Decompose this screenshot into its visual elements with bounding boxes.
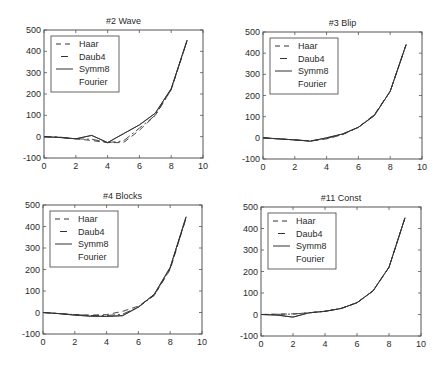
legend-label: Daub4 xyxy=(78,227,105,237)
x-tick-label: 4 xyxy=(322,339,327,349)
legend: HaarDaub4Symm8Fourier xyxy=(270,38,338,94)
legend-label: Haar xyxy=(78,214,98,224)
x-tick-label: 8 xyxy=(168,337,173,347)
y-tick-label: 100 xyxy=(245,112,260,122)
y-tick-label: 200 xyxy=(243,267,258,277)
x-tick-label: 2 xyxy=(290,339,295,349)
legend: HaarDaub4Symm8Fourier xyxy=(50,211,118,267)
y-tick-label: 200 xyxy=(245,91,260,101)
legend-label: Symm8 xyxy=(298,66,329,76)
subplot-3: #4 Blocks-10001002003004005000246810Haar… xyxy=(22,191,207,347)
chart-title: #11 Const xyxy=(321,193,362,203)
y-tick-label: 300 xyxy=(245,69,260,79)
y-tick-label: -100 xyxy=(240,331,258,341)
y-tick-label: -100 xyxy=(242,154,260,164)
y-tick-label: 300 xyxy=(26,68,41,78)
x-tick-label: 10 xyxy=(416,339,426,349)
y-tick-label: 0 xyxy=(35,308,40,318)
legend-label: Fourier xyxy=(78,252,107,262)
legend-label: Fourier xyxy=(296,254,325,264)
x-tick-label: 4 xyxy=(104,337,109,347)
y-tick-label: -100 xyxy=(22,329,40,339)
legend-label: Symm8 xyxy=(296,241,327,251)
y-tick-label: 300 xyxy=(25,243,40,253)
y-tick-label: -100 xyxy=(23,153,41,163)
x-tick-label: 0 xyxy=(258,339,263,349)
y-tick-label: 0 xyxy=(36,132,41,142)
chart-title: #3 Blip xyxy=(329,18,357,28)
legend-label: Daub4 xyxy=(296,229,323,239)
x-tick-label: 2 xyxy=(73,161,78,171)
y-tick-label: 100 xyxy=(25,286,40,296)
legend-label: Haar xyxy=(298,41,318,51)
x-tick-label: 10 xyxy=(197,337,207,347)
x-tick-label: 10 xyxy=(417,162,427,172)
x-tick-label: 4 xyxy=(324,162,329,172)
subplot-2: #3 Blip-10001002003004005000246810HaarDa… xyxy=(242,18,427,172)
x-tick-label: 8 xyxy=(388,162,393,172)
x-tick-label: 6 xyxy=(354,339,359,349)
y-tick-label: 500 xyxy=(26,25,41,35)
legend-label: Fourier xyxy=(79,77,108,87)
y-tick-label: 400 xyxy=(245,48,260,58)
subplot-1: #2 Wave-10001002003004005000246810HaarDa… xyxy=(23,16,208,171)
legend-label: Fourier xyxy=(298,79,327,89)
legend: HaarDaub4Symm8Fourier xyxy=(268,213,336,269)
legend-label: Daub4 xyxy=(298,54,325,64)
x-tick-label: 0 xyxy=(40,337,45,347)
legend-label: Symm8 xyxy=(79,64,110,74)
y-tick-label: 500 xyxy=(243,202,258,212)
y-tick-label: 100 xyxy=(243,288,258,298)
y-tick-label: 500 xyxy=(25,200,40,210)
x-tick-label: 4 xyxy=(105,161,110,171)
y-tick-label: 0 xyxy=(255,133,260,143)
legend: HaarDaub4Symm8Fourier xyxy=(51,36,119,92)
x-tick-label: 8 xyxy=(386,339,391,349)
x-tick-label: 6 xyxy=(137,161,142,171)
y-tick-label: 400 xyxy=(243,224,258,234)
figure: #2 Wave-10001002003004005000246810HaarDa… xyxy=(0,0,444,366)
subplot-4: #11 Const-10001002003004005000246810Haar… xyxy=(240,193,426,349)
y-tick-label: 300 xyxy=(243,245,258,255)
figure-canvas: #2 Wave-10001002003004005000246810HaarDa… xyxy=(0,0,444,366)
x-tick-label: 2 xyxy=(292,162,297,172)
legend-label: Daub4 xyxy=(79,52,106,62)
x-tick-label: 0 xyxy=(260,162,265,172)
y-tick-label: 0 xyxy=(253,310,258,320)
y-tick-label: 200 xyxy=(26,89,41,99)
y-tick-label: 500 xyxy=(245,27,260,37)
y-tick-label: 400 xyxy=(25,222,40,232)
y-tick-label: 200 xyxy=(25,265,40,275)
legend-label: Haar xyxy=(79,39,99,49)
x-tick-label: 0 xyxy=(41,161,46,171)
x-tick-label: 6 xyxy=(356,162,361,172)
x-tick-label: 10 xyxy=(198,161,208,171)
chart-title: #4 Blocks xyxy=(103,191,143,201)
chart-title: #2 Wave xyxy=(106,16,141,26)
y-tick-label: 100 xyxy=(26,110,41,120)
legend-label: Symm8 xyxy=(78,239,109,249)
legend-label: Haar xyxy=(296,216,316,226)
y-tick-label: 400 xyxy=(26,46,41,56)
x-tick-label: 8 xyxy=(169,161,174,171)
x-tick-label: 6 xyxy=(136,337,141,347)
x-tick-label: 2 xyxy=(72,337,77,347)
